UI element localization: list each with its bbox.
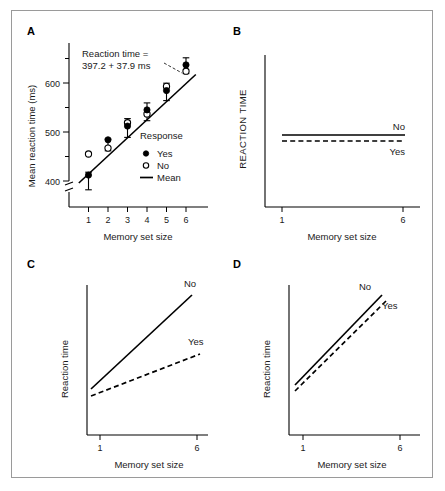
panel-a-xlabel-4: 4	[144, 215, 149, 225]
panel-a-xlabel-2: 2	[105, 215, 110, 225]
panel-a: A Mean reaction time (ms) 400 500 600 1 …	[12, 11, 224, 247]
panel-b-letter: B	[233, 25, 241, 37]
panel-a-axis-break-lower	[65, 188, 73, 191]
panel-a-marker-yes-2	[105, 137, 111, 143]
panel-a-xlabel-1: 1	[86, 215, 91, 225]
panel-a-marker-no-1	[85, 151, 91, 157]
panel-a-point-group-2	[105, 137, 112, 151]
panel-a-annotation-leader	[164, 63, 182, 73]
panel-a-point-group-5	[163, 83, 170, 100]
panel-a-marker-yes-5	[163, 88, 169, 94]
panel-b-xlabel-6: 6	[400, 215, 405, 225]
panel-a-xlabel-3: 3	[125, 215, 130, 225]
panel-a-legend-marker-no	[143, 163, 148, 168]
panel-b: B REACTION TIME 1 6 Memory set size No Y…	[219, 11, 432, 247]
panel-a-xlabel-5: 5	[164, 215, 169, 225]
panel-c-line-yes	[91, 354, 200, 396]
panel-a-ylabel-400: 400	[45, 177, 60, 187]
panel-a-xlabel-6: 6	[183, 215, 188, 225]
panel-a-marker-no-2	[105, 145, 111, 151]
panel-b-xlabel-1: 1	[279, 215, 284, 225]
panel-c-label-no: No	[184, 278, 196, 289]
panel-a-x-axis-title: Memory set size	[103, 231, 172, 242]
panel-a-legend: Response Yes No Mean	[140, 130, 183, 183]
panel-b-label-yes: Yes	[390, 146, 406, 157]
panel-c-xlabel-1: 1	[97, 443, 102, 453]
panel-a-legend-label-mean: Mean	[157, 172, 181, 183]
figure-frame: A Mean reaction time (ms) 400 500 600 1 …	[11, 10, 433, 478]
panel-a-marker-yes-3	[124, 123, 130, 129]
panel-c-letter: C	[27, 258, 35, 270]
panel-c-x-axis-title: Memory set size	[114, 459, 183, 470]
panel-a-letter: A	[27, 25, 35, 37]
panel-a-point-group-3	[124, 119, 131, 138]
panel-d: D Reaction time 1 6 Memory set size No Y…	[219, 243, 432, 479]
panel-a-marker-yes-1	[85, 172, 91, 178]
panel-b-label-no: No	[393, 121, 405, 132]
panel-d-label-no: No	[359, 281, 371, 292]
panel-c-y-axis-title: Reaction time	[59, 340, 70, 398]
panel-d-letter: D	[233, 258, 241, 270]
panel-c-label-yes: Yes	[188, 336, 204, 347]
panel-b-x-axis-title: Memory set size	[307, 231, 376, 242]
panel-c: C Reaction time 1 6 Memory set size No Y…	[12, 243, 224, 479]
panel-c-line-no	[91, 295, 192, 389]
panel-a-point-group-6	[183, 58, 190, 75]
panel-a-legend-label-no: No	[157, 160, 169, 171]
panel-d-xlabel-1: 1	[300, 443, 305, 453]
panel-a-marker-yes-6	[183, 62, 189, 68]
panel-d-y-axis-title: Reaction time	[261, 340, 272, 398]
panel-a-legend-label-yes: Yes	[157, 148, 173, 159]
panel-a-marker-yes-4	[144, 107, 150, 113]
panel-b-y-axis-title: REACTION TIME	[237, 89, 248, 168]
panel-a-y-axis-title: Mean reaction time (ms)	[26, 85, 37, 187]
panel-a-point-group-1	[85, 151, 92, 190]
panel-d-line-yes	[295, 301, 386, 391]
panel-d-xlabel-6: 6	[397, 443, 402, 453]
panel-a-ylabel-600: 600	[45, 79, 60, 89]
panel-d-label-yes: Yes	[382, 300, 398, 311]
panel-d-line-no	[295, 295, 382, 385]
panel-a-legend-marker-yes	[143, 151, 148, 156]
panel-a-marker-no-6	[183, 68, 189, 74]
panel-a-mean-fit-line	[79, 75, 196, 184]
panel-a-legend-title: Response	[140, 130, 183, 141]
panel-c-xlabel-6: 6	[194, 443, 199, 453]
panel-a-annotation-line2: 397.2 + 37.9 ms	[82, 60, 151, 71]
panel-a-annotation-line1: Reaction time =	[82, 48, 149, 59]
panel-d-x-axis-title: Memory set size	[317, 459, 386, 470]
panel-a-axis-break-upper	[65, 182, 73, 185]
panel-a-ylabel-500: 500	[45, 128, 60, 138]
